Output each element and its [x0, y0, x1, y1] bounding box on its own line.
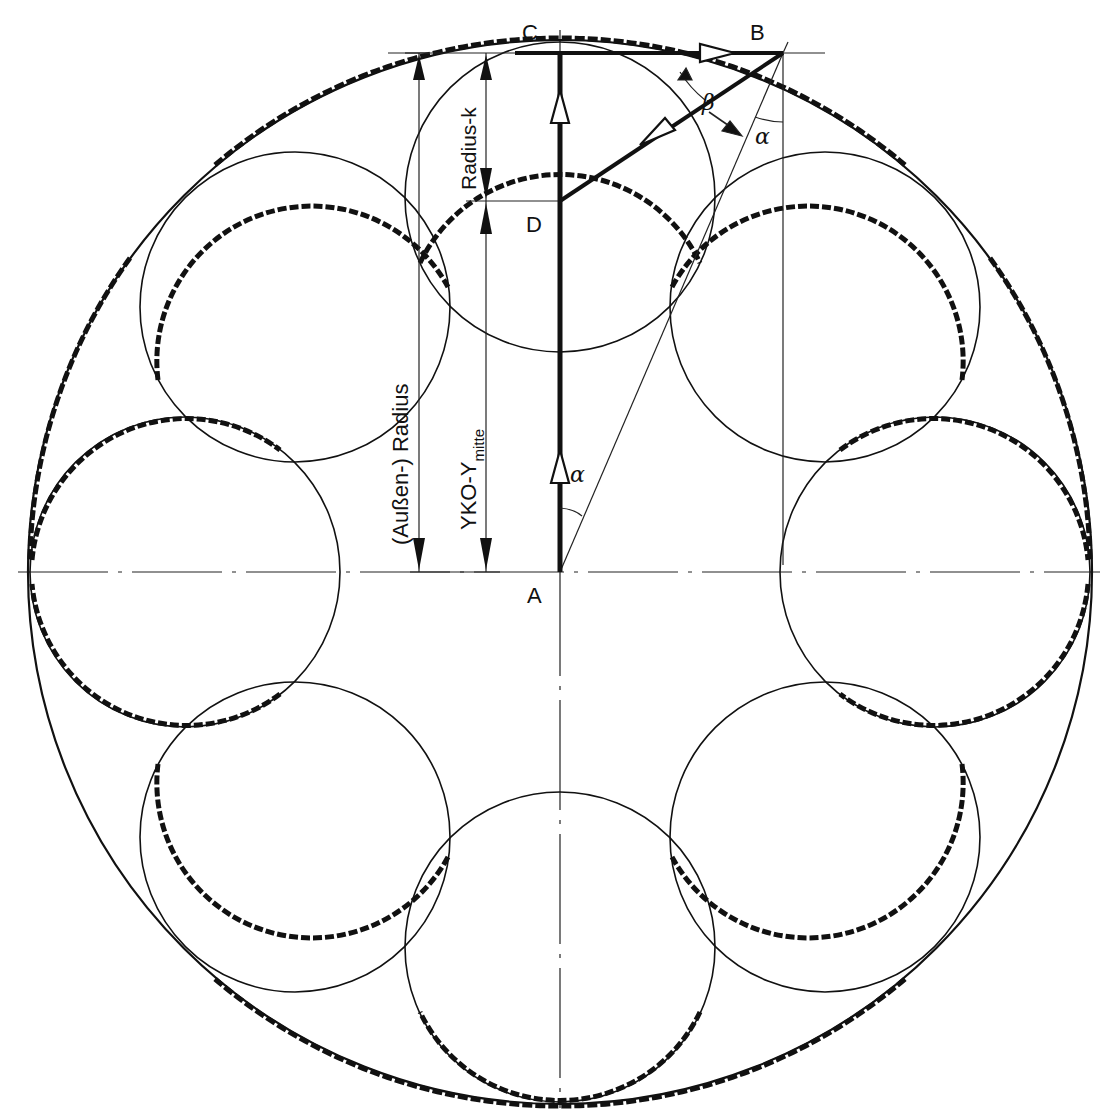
arrow-radiusk-bottom: [480, 168, 492, 199]
label-ymitte-sub: mitte: [470, 429, 487, 462]
lobe-lower-right: [670, 682, 980, 992]
vectors: [515, 44, 783, 572]
alpha-arc-B: [755, 117, 783, 122]
construction-lines: [388, 42, 825, 572]
lobe-lower-left: [140, 682, 450, 992]
label-outer-radius: (Außen-) Radius: [388, 384, 413, 545]
label-radius-k: Radius-k: [457, 107, 480, 190]
arrow-ymitte-top: [480, 203, 492, 234]
beta-arrowhead-left: [678, 68, 692, 80]
arrow-ymitte-bottom: [480, 538, 492, 570]
open-arrow-up-upper: [551, 90, 569, 123]
point-label-B: B: [750, 20, 765, 45]
alpha-arc-A: [560, 508, 582, 516]
lobe-construction-diagram: (Außen-) Radius YKO-Ymitte Radius-k A B …: [0, 0, 1111, 1113]
label-ymitte-main: YKO-Y: [456, 461, 481, 530]
open-arrow-up-lower: [551, 450, 569, 483]
open-arrow-down-left: [640, 118, 675, 145]
line-B-ext: [783, 42, 788, 53]
lobe-upper-right: [670, 152, 980, 462]
svg-text:YKO-Ymitte: YKO-Ymitte: [456, 429, 487, 530]
angle-label-alpha-B: α: [755, 124, 770, 149]
point-label-D: D: [526, 212, 542, 237]
angle-label-beta: β: [701, 90, 715, 115]
point-label-A: A: [527, 583, 542, 608]
arrow-outer-bottom: [413, 538, 425, 570]
angle-label-alpha-A: α: [570, 462, 585, 487]
label-ymitte: YKO-Ymitte: [456, 429, 487, 530]
point-label-C: C: [522, 20, 538, 45]
